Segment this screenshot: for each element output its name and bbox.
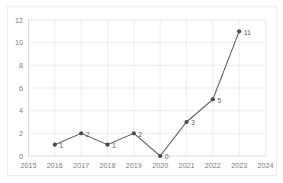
- y-tick-label: 4: [19, 106, 23, 115]
- y-tick-label: 0: [19, 152, 23, 161]
- x-tick-label: 2017: [73, 161, 89, 170]
- x-tick-label: 2020: [152, 161, 168, 170]
- x-tick-label: 2019: [126, 161, 142, 170]
- data-point-marker: [132, 131, 136, 135]
- y-tick-label: 8: [19, 61, 23, 70]
- x-tick-label: 2022: [205, 161, 221, 170]
- data-point-label: 5: [217, 97, 221, 104]
- x-tick-label: 2018: [100, 161, 116, 170]
- y-tick-label: 10: [15, 38, 23, 47]
- y-tick-label: 6: [19, 84, 23, 93]
- x-tick-label: 2016: [47, 161, 63, 170]
- data-point-label: 2: [138, 131, 142, 138]
- x-tick-label: 2024: [258, 161, 274, 170]
- data-point-label: 1: [112, 142, 116, 149]
- x-tick-label: 2021: [179, 161, 195, 170]
- line-chart: 024681012 201520162017201820192020202120…: [0, 0, 283, 183]
- y-axis-tick-labels: 024681012: [15, 16, 23, 161]
- data-point-marker: [184, 120, 188, 124]
- data-point-marker: [105, 143, 109, 147]
- y-tick-label: 12: [15, 16, 23, 25]
- x-axis-tick-labels: 2015201620172018201920202021202220232024: [21, 161, 274, 170]
- x-tick-label: 2015: [21, 161, 37, 170]
- series-data-labels: 121203511: [59, 29, 251, 161]
- data-point-marker: [79, 131, 83, 135]
- data-point-label: 3: [191, 119, 195, 126]
- data-point-label: 1: [59, 142, 63, 149]
- horizontal-gridlines: [29, 20, 266, 133]
- data-point-marker: [53, 143, 57, 147]
- data-point-marker: [237, 29, 241, 33]
- data-point-label: 2: [86, 131, 90, 138]
- data-point-marker: [158, 154, 162, 158]
- x-tick-label: 2023: [231, 161, 247, 170]
- data-point-label: 0: [165, 153, 169, 160]
- data-point-marker: [211, 97, 215, 101]
- y-tick-label: 2: [19, 129, 23, 138]
- chart-plot-area: 024681012 201520162017201820192020202120…: [0, 0, 283, 183]
- data-point-label: 11: [244, 29, 251, 36]
- series-line: [55, 31, 239, 156]
